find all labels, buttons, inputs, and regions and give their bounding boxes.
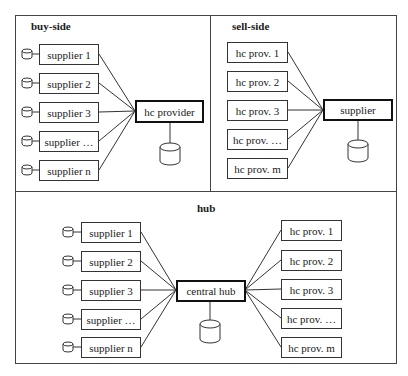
buy-side-supplier-node: supplier 3 xyxy=(39,102,99,123)
hub-supplier-node: supplier … xyxy=(81,309,141,330)
database-icon xyxy=(62,313,74,325)
database-icon xyxy=(62,255,74,267)
buy-side-supplier-node: supplier 2 xyxy=(39,73,99,94)
sell-side-hc-prov-node: hc prov. 3 xyxy=(227,100,288,121)
central-hub-node: central hub xyxy=(176,280,246,302)
database-icon xyxy=(21,164,33,176)
supplier-database-icon xyxy=(347,139,369,163)
central-hub-database-icon xyxy=(199,319,221,344)
sell-side-hc-prov-node: hc prov. … xyxy=(227,129,288,150)
sell-side-hc-prov-node: hc prov. 1 xyxy=(227,42,288,63)
database-icon xyxy=(21,135,33,147)
database-icon xyxy=(62,341,74,353)
hub-hc-prov-node: hc prov. … xyxy=(281,308,342,329)
sell-side-hc-prov-node: hc prov. 2 xyxy=(227,71,288,92)
database-icon xyxy=(62,284,74,296)
hub-hc-prov-node: hc prov. m xyxy=(281,337,342,358)
supplier-node: supplier xyxy=(323,99,393,121)
buy-side-supplier-node: supplier n xyxy=(39,160,99,181)
hub-hc-prov-node: hc prov. 3 xyxy=(281,279,342,300)
buy-side-supplier-node: supplier … xyxy=(39,131,99,152)
hub-supplier-node: supplier 2 xyxy=(81,251,141,272)
hub-supplier-node: supplier 3 xyxy=(81,280,141,301)
hc-provider-database-icon xyxy=(159,142,181,166)
hub-hc-prov-node: hc prov. 2 xyxy=(281,250,342,271)
sell-side-title: sell-side xyxy=(232,20,269,32)
sell-side-hc-prov-node: hc prov. m xyxy=(227,158,288,179)
buy-side-supplier-node: supplier 1 xyxy=(39,44,99,65)
hub-title: hub xyxy=(197,202,215,214)
hub-supplier-node: supplier n xyxy=(81,337,141,358)
database-icon xyxy=(62,226,74,238)
database-icon xyxy=(21,48,33,60)
buy-side-title: buy-side xyxy=(31,20,71,32)
hc-provider-node: hc provider xyxy=(135,100,204,123)
hub-supplier-node: supplier 1 xyxy=(81,222,141,243)
database-icon xyxy=(21,77,33,89)
hub-hc-prov-node: hc prov. 1 xyxy=(281,220,342,241)
database-icon xyxy=(21,106,33,118)
